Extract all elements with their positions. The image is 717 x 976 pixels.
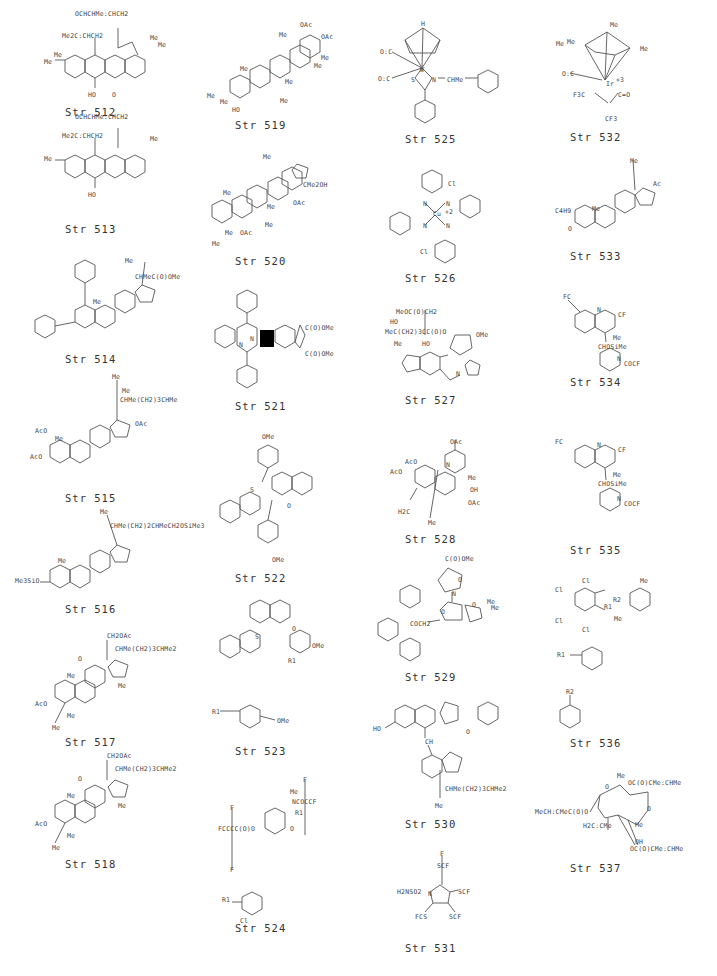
label-534-11: COCF — [624, 360, 640, 368]
label-528-5: OH — [470, 486, 478, 494]
label-529-1: O — [458, 576, 462, 584]
label-519-9: Me — [280, 97, 288, 105]
structure-512: OCHCHMe:CHCH2 Me2C:CHCH2 Me Me Me Me HO … — [0, 0, 200, 125]
label-526-4: +2 — [445, 208, 453, 216]
label-515-1: Me — [122, 387, 130, 395]
label-531-12: SCF — [449, 913, 461, 921]
label-526-2: N — [446, 200, 450, 208]
label-537-1: OC(O)CMe:CHMe — [628, 779, 681, 787]
label-517-4: Me — [118, 682, 126, 690]
label-515-3: AcO — [35, 427, 47, 435]
label-515-4: Me — [55, 435, 63, 443]
label-519-10: HO — [232, 106, 240, 114]
label-534-1: FC — [563, 293, 571, 301]
label-518-3: Me — [67, 792, 75, 800]
label-512-5: Me — [158, 41, 166, 49]
label-517-7: Me — [52, 724, 60, 732]
structure-524: F Me NCOCCF R1 F FCCCC(O)O O F R1 Cl Str… — [200, 760, 380, 900]
label-520-2: Me — [223, 189, 231, 197]
label-526-6: N — [446, 222, 450, 230]
label-531-1: SCF — [437, 862, 449, 870]
label-536-8: Me — [640, 577, 648, 585]
label-512-3: Me — [44, 58, 52, 66]
label-521-0: N — [250, 335, 254, 343]
label-534-7: Me — [613, 334, 621, 342]
label-527-8: N — [456, 370, 460, 378]
label-524-7: F — [230, 804, 234, 812]
label-523-1: S — [255, 633, 259, 641]
label-536-11: R2 — [566, 688, 574, 696]
label-532-1: Me — [556, 40, 564, 48]
label-517-2: O — [78, 655, 82, 663]
caption-520: Str 520 — [235, 255, 286, 267]
label-537-6: H2C:CMe — [583, 822, 612, 830]
label-527-4: HO — [422, 340, 430, 348]
label-528-4: Me — [468, 474, 476, 482]
label-521-1: N — [239, 341, 243, 349]
label-535-7: Me — [613, 471, 621, 479]
label-513-1: Me2C:CHCH2 — [62, 132, 103, 140]
label-536-6: R1 — [604, 603, 612, 611]
label-534-5: CF — [618, 311, 626, 319]
label-526-3: Cu — [433, 210, 441, 218]
label-524-10: O — [290, 825, 294, 833]
structure-520: Me CMe2OH Me OAc Me Me Me OAc Me Str 520 — [200, 140, 380, 270]
label-531-3: H2NSO2 — [397, 888, 422, 896]
label-512-0: OCHCHMe:CHCH2 — [75, 10, 128, 18]
label-530-3: HO — [373, 725, 381, 733]
caption-531: Str 531 — [405, 942, 456, 954]
label-530-4: O — [466, 728, 470, 736]
label-520-8: Me — [212, 240, 220, 248]
caption-530: Str 530 — [405, 818, 456, 830]
molecule-518-drawing — [0, 755, 230, 875]
caption-514: Str 514 — [65, 353, 116, 365]
caption-516: Str 516 — [65, 603, 116, 615]
label-531-9: FCS — [415, 913, 427, 921]
label-519-1: Me — [279, 31, 287, 39]
structure-514: Me CHMeC(O)OMe Me Str 514 — [0, 240, 200, 375]
caption-518: Str 518 — [65, 858, 116, 870]
caption-513: Str 513 — [65, 223, 116, 235]
label-536-1: Cl — [555, 586, 563, 594]
label-517-6: Me — [67, 712, 75, 720]
structure-528: OAc AcO AcO N Me OH OAc H2C Me Str 528 — [370, 410, 550, 540]
structure-516: Me CHMe(CH2)2CHMeCH2OSiMe3 Me Me3SiO Str… — [0, 510, 230, 635]
label-530-6: CHMe(CH2)3CHMe2 — [445, 785, 507, 793]
structure-523: O S R1 OMe R1 OMe Str 523 — [200, 595, 380, 755]
structure-534: FC N CF Me CHOSiMe N COCF Str 534 — [540, 280, 717, 390]
molecule-519-drawing — [200, 0, 380, 135]
label-536-10: R1 — [557, 651, 565, 659]
label-517-5: AcO — [35, 700, 47, 708]
label-537-2: O — [605, 783, 609, 791]
structure-513: OCHCHMe:CHCH2 Me2C:CHCH2 Me Me HO Str 51… — [0, 125, 200, 240]
label-512-2: Me — [54, 51, 62, 59]
label-519-0: OAc — [300, 21, 312, 29]
label-516-3: Me3SiO — [15, 577, 40, 585]
label-519-6: Me — [285, 78, 293, 86]
label-527-3: Me — [394, 340, 402, 348]
label-527-1: HO — [390, 318, 398, 326]
molecule-520-drawing — [200, 140, 380, 270]
label-519-3: Me — [321, 54, 329, 62]
molecule-522-drawing — [200, 430, 380, 595]
label-529-7: COCH2 — [410, 620, 431, 628]
label-535-5: CF — [618, 446, 626, 454]
label-516-1: CHMe(CH2)2CHMeCH2OSiMe3 — [110, 522, 205, 530]
structure-532: Me Me Me Me O:C Ir +3 F3C C=O CF3 Str 53… — [540, 0, 717, 150]
structure-536: Cl Cl Cl Cl R2 R1 Me Me R1 R2 Str 536 — [540, 560, 717, 760]
caption-519: Str 519 — [235, 119, 286, 131]
label-527-2: MeC(CH2)3CC(O)O — [385, 328, 447, 336]
label-535-1: FC — [555, 438, 563, 446]
label-520-5: Me — [265, 221, 273, 229]
label-516-2: Me — [58, 557, 66, 565]
label-527-0: MeOC(O)CH2 — [396, 308, 437, 316]
label-524-12: F — [230, 866, 234, 874]
label-529-6: Me — [491, 604, 499, 612]
label-520-3: OAc — [293, 199, 305, 207]
label-519-4: Me — [314, 62, 322, 70]
label-518-5: AcO — [35, 820, 47, 828]
label-524-13: R1 — [222, 896, 230, 904]
molecule-535-drawing — [540, 390, 717, 560]
structure-527: MeOC(O)CH2 HO MeC(CH2)3CC(O)O Me HO OMe … — [370, 280, 550, 410]
label-521-2: C(O)OMe — [305, 324, 334, 332]
